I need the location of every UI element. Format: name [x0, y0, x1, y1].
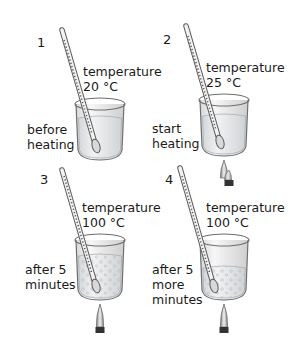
- step-caption: start heating: [152, 121, 200, 151]
- temperature-value: 25 °C: [206, 75, 241, 90]
- step-number: 2: [163, 33, 171, 47]
- panel-3: 3 temperature 100 °C after 5 minutes: [0, 170, 148, 348]
- panel-1: 1 temperature 20 °C before heating: [0, 0, 148, 178]
- bunsen-burner-icon: [96, 304, 105, 333]
- step-caption: after 5 minutes: [25, 262, 76, 292]
- step-number: 3: [40, 173, 48, 187]
- temperature-value: 100 °C: [82, 215, 125, 230]
- step-caption: before heating: [27, 122, 75, 152]
- step-number: 4: [165, 173, 173, 187]
- panel-2: 2 temperature 25 °C start heating: [148, 0, 296, 178]
- burner-top-icon: [224, 170, 233, 186]
- bunsen-burner-icon: [220, 304, 229, 333]
- temperature-value: 20 °C: [83, 79, 118, 94]
- temperature-label: temperature: [206, 200, 285, 215]
- temperature-value: 100 °C: [206, 215, 249, 230]
- panel-4: 4 temperature 100 °C after 5 more minute…: [148, 170, 296, 348]
- step-caption: after 5 more minutes: [152, 262, 203, 307]
- step-number: 1: [37, 36, 45, 50]
- temperature-label: temperature: [206, 60, 285, 75]
